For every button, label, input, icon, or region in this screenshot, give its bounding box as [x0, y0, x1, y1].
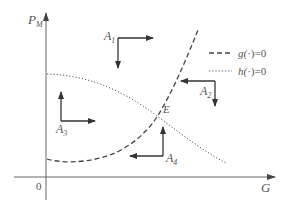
region-A3-label: A3 [55, 122, 67, 138]
region-A4-label: A4 [165, 151, 177, 167]
axes [14, 13, 275, 200]
y-axis-label: PM [27, 12, 44, 29]
region-A1-label: A1 [103, 29, 115, 45]
equilibrium-label-E: E [162, 103, 170, 115]
region-A4-arrows: A4 [130, 127, 177, 167]
legend-h-label: h(·)=0 [238, 65, 267, 78]
region-A2-label: A2 [199, 84, 211, 100]
phase-diagram: PM G 0 E g(·)=0 h(·)=0 A1 A2 A3 A4 [0, 0, 281, 223]
origin-label: 0 [36, 180, 42, 192]
region-A3-arrows: A3 [55, 92, 95, 138]
region-A1-arrows: A1 [103, 29, 153, 68]
g-curve-dashed [47, 30, 198, 162]
x-axis-label: G [261, 180, 271, 195]
legend: g(·)=0 h(·)=0 [209, 47, 267, 78]
region-A2-arrows: A2 [181, 81, 215, 106]
legend-g-label: g(·)=0 [238, 47, 267, 60]
